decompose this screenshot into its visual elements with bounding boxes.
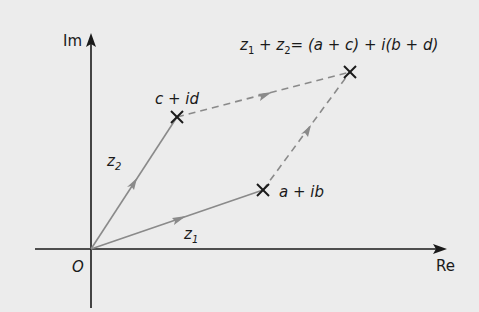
point-markers	[171, 66, 356, 196]
point-label-z1: a + ib	[279, 183, 324, 201]
dashed-z2-arrow-icon	[301, 125, 311, 137]
x-axis-label: Re	[436, 257, 455, 275]
argand-diagram: Im Re O c + id a + ib z1 + z2= (a + c) +…	[0, 0, 479, 312]
z1-name: z	[184, 225, 192, 243]
axes	[35, 33, 447, 308]
vector-label-z1: z1	[184, 225, 198, 245]
z2-sub: 2	[115, 161, 121, 172]
z2-name: z	[107, 152, 115, 170]
dashed-z1-arrow-icon	[258, 92, 272, 101]
sum-plus: +	[254, 36, 276, 54]
sum-label: z1 + z2= (a + c) + i(b + d)	[240, 36, 438, 56]
point-label-z2: c + id	[155, 90, 199, 108]
z1-sub: 1	[192, 234, 198, 245]
sum-z1: z	[240, 36, 248, 54]
origin-label: O	[72, 258, 84, 276]
y-axis-label: Im	[63, 32, 82, 50]
cross-icon-z1	[257, 184, 269, 196]
sum-rhs: = (a + c) + i(b + d)	[291, 36, 439, 54]
vector-z2-arrow-icon	[127, 178, 137, 190]
cross-icon-sum	[344, 66, 356, 78]
vector-label-z2: z2	[107, 152, 121, 172]
dashed-vectors	[177, 72, 350, 190]
vectors	[91, 117, 263, 249]
cross-icon-z2	[171, 111, 183, 123]
